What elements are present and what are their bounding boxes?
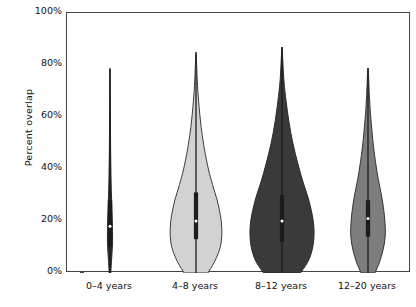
x-tick-label-0: 0–4 years bbox=[86, 280, 132, 291]
y-tick-label: 60% bbox=[22, 109, 62, 120]
violin-median-marker bbox=[367, 217, 370, 220]
violin-median-marker bbox=[195, 220, 198, 223]
violin-3 bbox=[351, 68, 386, 273]
violin-series-layer bbox=[67, 13, 411, 273]
x-tick-label-2: 8–12 years bbox=[255, 280, 307, 291]
y-tick-label: 40% bbox=[22, 161, 62, 172]
violin-1 bbox=[170, 52, 222, 273]
x-tick-label-1: 4–8 years bbox=[172, 280, 218, 291]
y-tick-label: 0% bbox=[22, 265, 62, 276]
violin-iqr-box bbox=[108, 200, 112, 247]
x-tick-label-3: 12–20 years bbox=[338, 280, 396, 291]
y-tick-label: 20% bbox=[22, 213, 62, 224]
violin-plot-figure: Percent overlap 0%20%40%60%80%100% 0–4 y… bbox=[0, 0, 416, 307]
violin-iqr-box bbox=[194, 192, 198, 239]
y-tick-label: 100% bbox=[22, 5, 62, 16]
violin-iqr-box bbox=[280, 195, 284, 242]
plot-area bbox=[66, 12, 410, 272]
y-tick-label: 80% bbox=[22, 57, 62, 68]
violin-2 bbox=[250, 47, 314, 273]
y-axis-ticks: 0%20%40%60%80%100% bbox=[18, 0, 62, 307]
violin-median-marker bbox=[109, 225, 112, 228]
violin-median-marker bbox=[281, 220, 284, 223]
violin-0 bbox=[107, 69, 112, 273]
